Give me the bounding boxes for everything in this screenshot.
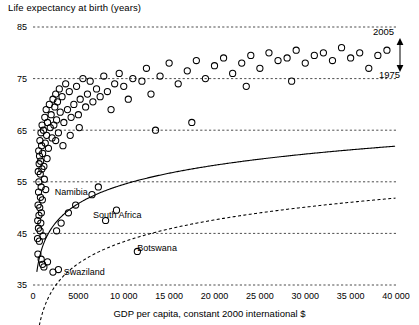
x-axis-title: GDP per capita, constant 2000 internatio… — [113, 308, 306, 319]
x-tick-35000: 35 000 — [337, 291, 365, 301]
y-tick-45: 45 — [17, 229, 27, 239]
chart-title: Life expectancy at birth (years) — [8, 2, 141, 13]
x-tick-0: 0 — [30, 291, 35, 301]
annotation-south-africa: South Africa — [93, 210, 142, 220]
annotation-namibia: Namibia — [55, 187, 88, 197]
life-expectancy-vs-gdp-scatter-chart: Life expectancy at birth (years) 3545556… — [0, 0, 419, 325]
x-axis-tick-labels: 0500010 00015 00020 00025 00030 00035 00… — [30, 291, 409, 301]
x-tick-25000: 25 000 — [246, 291, 274, 301]
x-tick-30000: 30 000 — [291, 291, 319, 301]
x-tick-20000: 20 000 — [201, 291, 229, 301]
y-tick-35: 35 — [17, 280, 27, 290]
y-tick-55: 55 — [17, 177, 27, 187]
annotation-swaziland: Swaziland — [64, 267, 105, 277]
y-tick-65: 65 — [17, 126, 27, 136]
y-tick-85: 85 — [17, 22, 27, 32]
annotation-botswana: Botswana — [137, 243, 177, 253]
curve-label-2005: 2005 — [373, 26, 394, 37]
x-tick-10000: 10 000 — [110, 291, 138, 301]
y-tick-75: 75 — [17, 74, 27, 84]
x-tick-40000: 40 000 — [382, 291, 410, 301]
curve-label-1975: 1975 — [379, 69, 400, 80]
x-tick-15000: 15 000 — [155, 291, 183, 301]
x-tick-5000: 5000 — [68, 291, 88, 301]
